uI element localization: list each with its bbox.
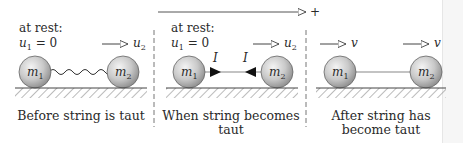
u1-equals-zero: u1 = 0	[19, 36, 57, 52]
impulse-diagram: + at rest: u1 = 0 u2 m1 m2 Before string…	[0, 0, 463, 143]
slack-string	[49, 70, 111, 75]
caption-line-2: taut	[218, 122, 244, 137]
ground-hatch	[166, 88, 298, 98]
v-label-right: v	[434, 36, 441, 50]
ground-hatch	[316, 88, 446, 98]
impulse-arrow-left	[245, 67, 256, 77]
impulse-arrow-right	[210, 67, 221, 77]
v-label-left: v	[351, 36, 358, 50]
panel-during: at rest: u1 = 0 u2 I I m1 m2 When string…	[162, 21, 299, 137]
plus-sign: +	[310, 5, 320, 19]
u2-label: u2	[284, 36, 297, 52]
caption-line-2: become taut	[342, 122, 421, 137]
u1-equals-zero: u1 = 0	[171, 36, 209, 52]
panel-before: at rest: u1 = 0 u2 m1 m2 Before string i…	[15, 21, 147, 123]
caption-line-1: When string becomes	[162, 108, 299, 123]
ground-hatch	[15, 88, 147, 98]
caption-line-1: After string has	[330, 108, 430, 123]
panel-after: v v m1 m2 After string has become taut	[316, 36, 446, 137]
at-rest-label: at rest:	[19, 21, 63, 35]
impulse-label-left: I	[212, 51, 218, 65]
impulse-label-right: I	[242, 51, 248, 65]
caption: Before string is taut	[17, 108, 144, 123]
positive-direction-arrow: +	[158, 5, 320, 19]
at-rest-label: at rest:	[171, 21, 215, 35]
u2-label: u2	[133, 36, 146, 52]
